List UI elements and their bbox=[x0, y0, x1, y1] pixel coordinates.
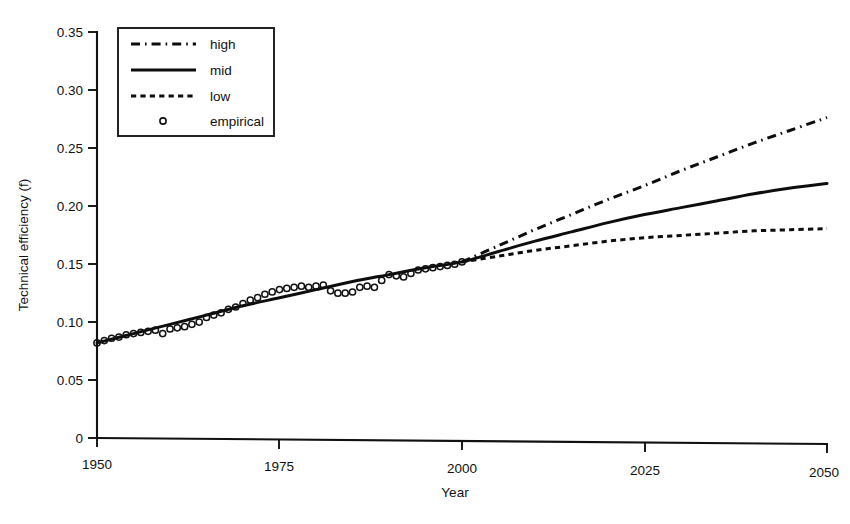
x-axis-title: Year bbox=[441, 485, 469, 500]
y-tick-label-0.15: 0.15 bbox=[57, 257, 83, 272]
x-tick-label-1950: 1950 bbox=[82, 457, 112, 472]
x-tick-label-2000: 2000 bbox=[447, 461, 477, 476]
y-tick-label-0.05: 0.05 bbox=[57, 373, 83, 388]
y-tick-label-0.10: 0.10 bbox=[57, 315, 83, 330]
figure-container: 0.35 0.30 0.25 0.20 0.15 0.10 0.05 0 Tec… bbox=[0, 0, 850, 524]
y-tick-label-0.20: 0.20 bbox=[57, 199, 83, 214]
legend-label-empirical: empirical bbox=[210, 114, 264, 129]
y-tick-label-0.30: 0.30 bbox=[57, 83, 83, 98]
x-tick-label-1975: 1975 bbox=[264, 459, 294, 474]
y-tick-label-0.35: 0.35 bbox=[57, 25, 83, 40]
y-tick-label-0.25: 0.25 bbox=[57, 141, 83, 156]
legend-label-low: low bbox=[210, 89, 231, 104]
legend-label-high: high bbox=[210, 37, 236, 52]
legend: high mid low empirical bbox=[118, 28, 274, 136]
technical-efficiency-line-chart: 0.35 0.30 0.25 0.20 0.15 0.10 0.05 0 Tec… bbox=[0, 0, 850, 524]
legend-label-mid: mid bbox=[210, 63, 232, 78]
x-tick-label-2050: 2050 bbox=[809, 465, 839, 480]
x-tick-label-2025: 2025 bbox=[630, 463, 660, 478]
y-axis-title: Technical efficiency (f) bbox=[16, 179, 31, 312]
y-tick-label-0: 0 bbox=[75, 431, 83, 446]
